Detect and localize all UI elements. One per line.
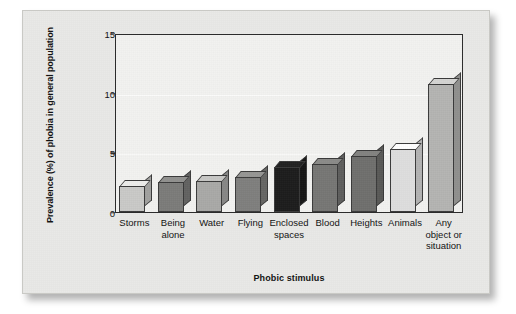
bar-front-face: [312, 164, 338, 212]
bar-side-face: [145, 174, 152, 206]
bar-2[interactable]: [196, 181, 222, 212]
bar-4[interactable]: [274, 167, 300, 212]
x-tick-line: object or: [425, 229, 461, 240]
bar-front-face: [119, 186, 145, 212]
bar-front-face: [196, 181, 222, 212]
x-tick-line: alone: [161, 229, 184, 240]
bar-8[interactable]: [428, 84, 454, 212]
plot-inner: [116, 35, 462, 212]
figure-card: Prevalence (%) of phobia in general popu…: [22, 10, 490, 294]
bar-front-face: [158, 182, 184, 212]
gridline-10: [116, 95, 462, 96]
bar-front-face: [274, 167, 300, 212]
bar-front-face: [235, 177, 261, 212]
bar-7[interactable]: [390, 149, 416, 212]
bar-5[interactable]: [312, 164, 338, 212]
x-tick-line: Water: [199, 217, 224, 228]
y-axis-tick-group: 051015: [81, 34, 115, 213]
x-tick-line: Flying: [238, 217, 263, 228]
bar-front-face: [351, 156, 377, 212]
x-tick-line: spaces: [274, 229, 304, 240]
bar-6[interactable]: [351, 156, 377, 212]
bar-front-face: [390, 149, 416, 212]
x-tick-line: Being: [161, 217, 185, 228]
bar-front-face: [428, 84, 454, 212]
bar-0[interactable]: [119, 186, 145, 212]
x-tick-line: Any: [435, 217, 451, 228]
y-axis-title: Prevalence (%) of phobia in general popu…: [37, 27, 63, 223]
plot-area: [115, 34, 463, 213]
x-tick-label-8: Anyobject orsituation: [417, 217, 471, 252]
bar-1[interactable]: [158, 182, 184, 212]
bar-side-face: [454, 72, 461, 206]
x-axis-title: Phobic stimulus: [115, 273, 463, 283]
x-axis-tick-group: StormsBeingaloneWaterFlyingEnclosedspace…: [115, 217, 463, 273]
x-tick-line: Storms: [119, 217, 149, 228]
x-tick-line: situation: [426, 240, 461, 251]
x-tick-line: Blood: [316, 217, 340, 228]
bar-3[interactable]: [235, 177, 261, 212]
